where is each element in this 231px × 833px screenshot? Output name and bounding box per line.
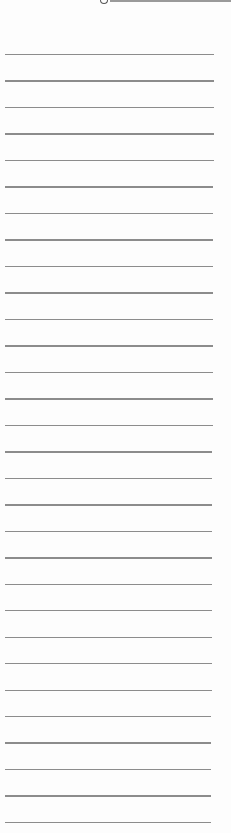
ruled-line xyxy=(5,531,212,532)
ruled-line xyxy=(5,160,214,161)
ruled-line xyxy=(5,795,211,796)
ruled-line xyxy=(5,213,213,214)
ruled-line xyxy=(5,584,212,585)
ruled-line xyxy=(5,239,213,240)
ruled-line xyxy=(5,266,213,267)
ruled-line xyxy=(5,292,213,293)
ruled-line xyxy=(5,637,212,638)
ruled-line xyxy=(5,133,214,134)
ruled-line xyxy=(5,716,211,717)
ruled-line xyxy=(5,504,212,505)
ruled-line xyxy=(5,769,211,770)
lined-paper-page xyxy=(0,0,231,833)
ruled-line xyxy=(5,54,214,55)
ruled-line xyxy=(5,610,212,611)
top-border-line xyxy=(110,0,231,2)
ruled-line xyxy=(5,478,212,479)
ruled-line xyxy=(5,557,212,558)
ruled-line xyxy=(5,451,212,452)
ruled-line xyxy=(5,372,213,373)
ruled-line xyxy=(5,690,212,691)
ruled-line xyxy=(5,742,211,743)
ruled-line xyxy=(5,663,212,664)
cutoff-handwriting-glyph xyxy=(100,0,108,4)
ruled-line xyxy=(5,425,213,426)
ruled-line xyxy=(5,186,213,187)
ruled-line xyxy=(5,345,213,346)
ruled-line xyxy=(5,107,214,108)
ruled-line xyxy=(5,822,211,823)
ruled-line xyxy=(5,319,213,320)
ruled-line xyxy=(5,80,214,81)
ruled-line xyxy=(5,398,213,399)
